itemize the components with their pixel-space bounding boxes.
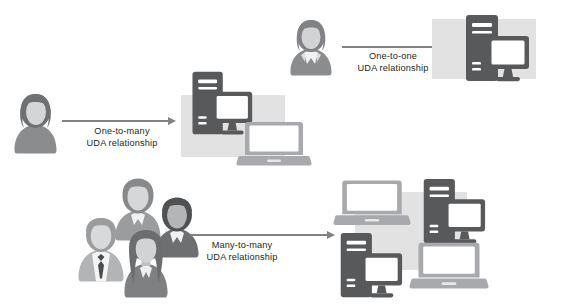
desktop-tower-monitor-icon — [331, 230, 405, 304]
laptop-icon — [333, 178, 411, 230]
desktop-tower-monitor-icon — [414, 176, 488, 250]
label-many-to-many-line1: Many-to-many — [178, 239, 306, 251]
arrow-shaft — [190, 234, 328, 236]
relationship-many-to-many: Many-to-many UDA relationship — [0, 0, 565, 306]
person-longhair-icon — [120, 228, 172, 298]
label-many-to-many-line2: UDA relationship — [178, 251, 306, 263]
laptop-icon — [409, 240, 489, 294]
diagram-canvas: One-to-one UDA relationship — [0, 0, 565, 306]
label-many-to-many: Many-to-many UDA relationship — [178, 239, 306, 264]
